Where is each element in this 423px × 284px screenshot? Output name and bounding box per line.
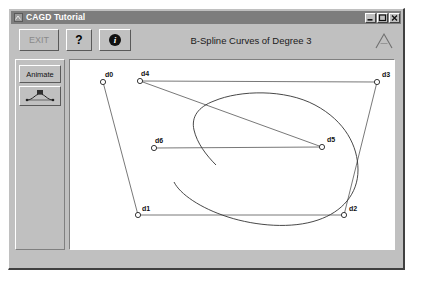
page-title: B-Spline Curves of Degree 3 [141,25,361,55]
app-icon [14,13,23,22]
control-point-d3[interactable] [374,79,379,84]
info-icon: i [109,34,121,46]
title-bar: CAGD Tutorial [11,11,401,24]
minimize-button[interactable] [365,13,376,23]
toolbar: EXIT ? i B-Spline Curves of Degree 3 [11,25,401,55]
control-polygon-segment [140,81,322,147]
control-point-label-d2: d2 [349,205,357,212]
control-polygon-segment [103,82,138,215]
control-point-d0[interactable] [100,79,105,84]
sidebar: Animate [15,59,65,250]
app-window: CAGD Tutorial EXIT ? i B-Spline Curves o… [8,8,405,270]
control-point-label-d0: d0 [105,71,113,78]
control-polygon-segment [344,82,377,215]
curve-tool-icon [24,89,56,104]
control-point-label-d4: d4 [141,70,149,77]
help-button[interactable]: ? [66,29,92,51]
bspline-plot: d0d4d3d6d5d1d2 [70,60,395,250]
control-point-label-d3: d3 [382,71,390,78]
control-polygon-segment [140,81,377,82]
bspline-curve-main [174,93,358,226]
control-point-label-d5: d5 [327,136,335,143]
content-area: Animate d0d4d3d6d5d1d2 [11,55,401,266]
control-polygon-segment [154,147,322,148]
exit-button[interactable]: EXIT [19,29,59,51]
control-point-d2[interactable] [341,212,346,217]
curve-tool-button[interactable] [19,86,61,106]
peak-triangle-logo-icon [373,31,395,51]
info-button[interactable]: i [99,29,131,51]
maximize-button[interactable] [377,13,388,23]
control-point-d6[interactable] [151,145,156,150]
control-point-label-d6: d6 [155,137,163,144]
control-point-label-d1: d1 [142,205,150,212]
bspline-curve-inner [193,101,216,165]
drawing-canvas[interactable]: d0d4d3d6d5d1d2 [69,59,395,250]
animate-button[interactable]: Animate [19,65,61,83]
control-point-d1[interactable] [135,212,140,217]
window-title: CAGD Tutorial [26,11,364,24]
control-point-d4[interactable] [137,78,142,83]
close-button[interactable] [389,13,400,23]
control-point-d5[interactable] [319,144,324,149]
